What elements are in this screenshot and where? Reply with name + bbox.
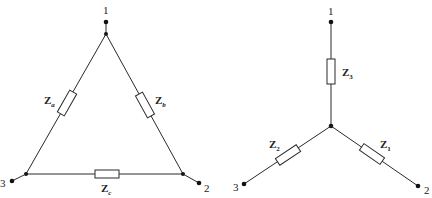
delta-resistor-zb: [135, 92, 154, 118]
delta-terminal-2-dot: [197, 181, 202, 186]
wye-node-3-label: 3: [233, 181, 239, 193]
wye-resistor-z3: [327, 59, 335, 84]
delta-network: 1 Za Zb Zc 3 2: [0, 4, 210, 197]
wye-terminal-2-dot: [416, 184, 421, 189]
delta-zb-label: Zb: [155, 94, 166, 109]
wye-terminal-1-dot: [329, 20, 334, 25]
wye-terminal-3-dot: [242, 182, 247, 187]
wye-z1-label: Z1: [380, 138, 391, 153]
delta-node-3-label: 3: [0, 177, 6, 189]
delta-za-label: Za: [44, 94, 55, 109]
delta-terminal-1-dot: [104, 20, 109, 25]
wye-z3-label: Z3: [342, 66, 353, 81]
delta-terminal-3-dot: [10, 179, 15, 184]
delta-resistor-za: [57, 90, 76, 116]
delta-node-2-label: 2: [204, 182, 210, 194]
delta-zc-label: Zc: [101, 182, 111, 197]
delta-wye-diagram: 1 Za Zb Zc 3 2 1: [0, 0, 432, 198]
delta-resistor-zc: [95, 170, 119, 178]
delta-terminal-2-lead: [183, 174, 199, 183]
delta-node-1-label: 1: [103, 4, 109, 16]
wye-node-2-label: 2: [424, 184, 430, 196]
wye-z2-label: Z2: [269, 138, 280, 153]
delta-terminal-3-lead: [12, 174, 26, 181]
wye-network: 1 Z3 Z2 3 Z1 2: [233, 5, 430, 196]
wye-node-1-label: 1: [328, 5, 334, 17]
